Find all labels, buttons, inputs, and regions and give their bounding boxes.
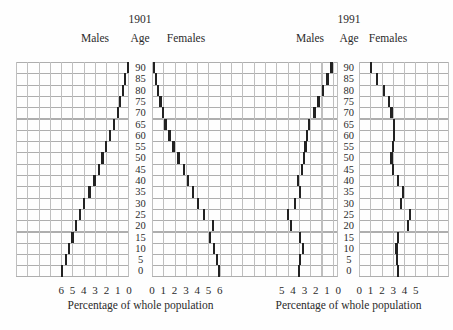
age-tick-label-1991-90: 90 bbox=[336, 62, 362, 73]
bar-1991-males-age-45 bbox=[301, 164, 303, 175]
bar-1991-males-age-60 bbox=[306, 130, 308, 141]
x-tick-males-1991-0: 0 bbox=[331, 284, 345, 296]
age-tick-label-1901-0: 0 bbox=[128, 265, 154, 276]
x-tick-females-1901-6: 6 bbox=[213, 284, 227, 296]
bar-1901-females-age-40 bbox=[187, 175, 189, 186]
x-tick-males-1901-0: 0 bbox=[122, 284, 136, 296]
age-tick-label-1991-15: 15 bbox=[336, 232, 362, 243]
age-tick-label-1991-80: 80 bbox=[336, 85, 362, 96]
age-tick-label-1991-25: 25 bbox=[336, 209, 362, 220]
bar-1901-males-age-40 bbox=[93, 175, 95, 186]
bar-1991-females-age-30 bbox=[400, 198, 402, 209]
age-tick-label-1991-30: 30 bbox=[336, 198, 362, 209]
grid-panel-0 bbox=[16, 62, 129, 277]
age-tick-label-1901-20: 20 bbox=[128, 220, 154, 231]
bar-1991-males-age-55 bbox=[304, 141, 306, 152]
age-tick-label-1901-90: 90 bbox=[128, 62, 154, 73]
bar-1901-males-age-30 bbox=[83, 198, 85, 209]
bar-1991-males-age-10 bbox=[302, 243, 304, 254]
bar-1901-females-age-45 bbox=[183, 164, 185, 175]
age-tick-label-1991-5: 5 bbox=[336, 254, 362, 265]
bar-1991-males-age-20 bbox=[290, 220, 292, 231]
bar-1991-females-age-55 bbox=[392, 141, 394, 152]
age-tick-label-1901-15: 15 bbox=[128, 232, 154, 243]
bar-1991-males-age-70 bbox=[313, 107, 315, 118]
age-tick-label-1901-45: 45 bbox=[128, 164, 154, 175]
bar-1901-males-age-80 bbox=[122, 85, 124, 96]
bar-1901-females-age-75 bbox=[159, 96, 161, 107]
bar-1991-males-age-80 bbox=[322, 85, 324, 96]
age-tick-label-1991-45: 45 bbox=[336, 164, 362, 175]
bar-1991-females-age-85 bbox=[376, 73, 378, 84]
bar-1901-females-age-25 bbox=[203, 209, 205, 220]
males-header-1901: Males bbox=[65, 32, 125, 44]
bar-1901-females-age-90 bbox=[153, 62, 155, 73]
age-tick-label-1991-35: 35 bbox=[336, 186, 362, 197]
bar-1991-females-age-25 bbox=[409, 209, 411, 220]
bar-1901-males-age-20 bbox=[75, 220, 77, 231]
age-tick-label-1991-10: 10 bbox=[336, 243, 362, 254]
age-tick-label-1901-75: 75 bbox=[128, 96, 154, 107]
bar-1901-females-age-30 bbox=[197, 198, 199, 209]
bar-1991-males-age-30 bbox=[294, 198, 296, 209]
bar-1901-males-age-90 bbox=[127, 62, 129, 73]
age-tick-label-1901-30: 30 bbox=[128, 198, 154, 209]
bar-1991-males-age-85 bbox=[326, 73, 328, 84]
bar-1901-males-age-45 bbox=[98, 164, 100, 175]
bar-1901-females-age-55 bbox=[172, 141, 174, 152]
bar-1991-females-age-40 bbox=[397, 175, 399, 186]
bar-1991-males-age-25 bbox=[287, 209, 289, 220]
age-tick-label-1991-75: 75 bbox=[336, 96, 362, 107]
age-tick-label-1901-10: 10 bbox=[128, 243, 154, 254]
bar-1991-females-age-0 bbox=[397, 265, 399, 276]
bar-1991-females-age-5 bbox=[396, 254, 398, 265]
bar-1901-females-age-80 bbox=[157, 85, 159, 96]
age-tick-label-1991-65: 65 bbox=[336, 119, 362, 130]
grid-panel-2 bbox=[359, 62, 449, 277]
bar-1901-females-age-50 bbox=[177, 152, 179, 163]
bar-1901-females-age-0 bbox=[218, 265, 220, 276]
bar-1901-males-age-55 bbox=[105, 141, 107, 152]
age-tick-label-1901-40: 40 bbox=[128, 175, 154, 186]
bar-1901-males-age-10 bbox=[68, 243, 70, 254]
bar-1901-females-age-70 bbox=[162, 107, 164, 118]
age-tick-label-1991-50: 50 bbox=[336, 152, 362, 163]
age-tick-label-1901-5: 5 bbox=[128, 254, 154, 265]
bar-1991-males-age-40 bbox=[297, 175, 299, 186]
age-tick-label-1991-40: 40 bbox=[336, 175, 362, 186]
bar-1901-males-age-15 bbox=[71, 232, 73, 243]
age-tick-label-1901-80: 80 bbox=[128, 85, 154, 96]
age-tick-label-1901-25: 25 bbox=[128, 209, 154, 220]
bar-1991-males-age-35 bbox=[299, 186, 301, 197]
x-axis-caption-1901: Percentage of whole population bbox=[50, 299, 231, 311]
bar-1901-males-age-75 bbox=[119, 96, 121, 107]
bar-1901-females-age-15 bbox=[209, 232, 211, 243]
bar-1991-males-age-50 bbox=[303, 152, 305, 163]
bar-1901-males-age-0 bbox=[61, 265, 63, 276]
population-pyramids-figure: 1901 1991 Males Age Females Males Age Fe… bbox=[0, 0, 453, 330]
bar-1991-females-age-20 bbox=[407, 220, 409, 231]
bar-1991-males-age-75 bbox=[317, 96, 319, 107]
bar-1991-females-age-75 bbox=[388, 96, 390, 107]
bar-1991-females-age-60 bbox=[393, 130, 395, 141]
bar-1991-males-age-0 bbox=[298, 265, 300, 276]
age-tick-label-1901-50: 50 bbox=[128, 152, 154, 163]
bar-1991-females-age-45 bbox=[392, 164, 394, 175]
bar-1991-males-age-5 bbox=[299, 254, 301, 265]
grid-panel-1 bbox=[152, 62, 338, 277]
bar-1901-females-age-60 bbox=[168, 130, 170, 141]
bar-1991-females-age-80 bbox=[383, 85, 385, 96]
bar-1901-females-age-10 bbox=[213, 243, 215, 254]
age-tick-label-1991-20: 20 bbox=[336, 220, 362, 231]
bar-1901-males-age-65 bbox=[113, 119, 115, 130]
bar-1991-females-age-50 bbox=[390, 152, 392, 163]
age-tick-label-1901-35: 35 bbox=[128, 186, 154, 197]
bar-1991-females-age-70 bbox=[390, 107, 392, 118]
chart-title-1991: 1991 bbox=[319, 13, 379, 25]
bar-1991-females-age-15 bbox=[397, 232, 399, 243]
bar-1901-males-age-35 bbox=[88, 186, 90, 197]
age-tick-label-1901-60: 60 bbox=[128, 130, 154, 141]
females-header-1901: Females bbox=[151, 32, 221, 44]
age-tick-label-1991-60: 60 bbox=[336, 130, 362, 141]
age-tick-label-1901-70: 70 bbox=[128, 107, 154, 118]
